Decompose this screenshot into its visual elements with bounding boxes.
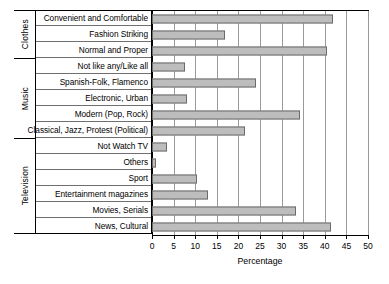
category-label-column: Convenient and ComfortableFashion Striki… — [36, 10, 152, 234]
bar-row — [152, 219, 368, 235]
bar — [152, 127, 245, 136]
bar — [152, 191, 208, 200]
group-label-television: Television — [14, 138, 36, 234]
bar-row — [152, 59, 368, 75]
bar — [152, 175, 197, 184]
x-tick-5 — [174, 235, 175, 239]
bar-chart: ClothesMusicTelevision Convenient and Co… — [0, 0, 389, 284]
bar-row — [152, 187, 368, 203]
x-tick-10 — [195, 235, 196, 239]
group-axis-column: ClothesMusicTelevision — [14, 10, 36, 234]
category-label: Fashion Striking — [36, 26, 151, 42]
bar — [152, 95, 187, 104]
category-label: Modern (Pop, Rock) — [36, 106, 151, 122]
category-label: Not like any/Like all — [36, 58, 151, 74]
group-label-text: Clothes — [20, 19, 30, 49]
x-tick-0 — [152, 235, 153, 239]
x-tick-45 — [346, 235, 347, 239]
category-label: Entertainment magazines — [36, 186, 151, 202]
bar — [152, 111, 300, 120]
group-label-text: Music — [20, 87, 30, 110]
category-label: Others — [36, 154, 151, 170]
bar-row — [152, 27, 368, 43]
x-tick-label: 45 — [342, 241, 351, 251]
category-label: Electronic, Urban — [36, 90, 151, 106]
bar-row — [152, 91, 368, 107]
bar-row — [152, 171, 368, 187]
x-tick-25 — [260, 235, 261, 239]
bar-row — [152, 11, 368, 27]
x-tick-label: 35 — [298, 241, 307, 251]
x-tick-50 — [368, 235, 369, 239]
x-tick-label: 0 — [150, 241, 155, 251]
bar — [152, 223, 331, 232]
group-label-clothes: Clothes — [14, 10, 36, 58]
x-tick-label: 15 — [212, 241, 221, 251]
x-tick-15 — [217, 235, 218, 239]
category-label: Convenient and Comfortable — [36, 10, 151, 26]
bar — [152, 31, 225, 40]
plot-area — [152, 10, 369, 236]
bar-row — [152, 139, 368, 155]
bar-row — [152, 123, 368, 139]
x-tick-30 — [282, 235, 283, 239]
bar-row — [152, 43, 368, 59]
x-tick-label: 25 — [255, 241, 264, 251]
category-label: News, Cultural — [36, 218, 151, 234]
category-label: Normal and Proper — [36, 42, 151, 58]
x-axis-title: Percentage — [152, 256, 368, 266]
bar-row — [152, 203, 368, 219]
x-tick-40 — [325, 235, 326, 239]
x-tick-label: 40 — [320, 241, 329, 251]
category-label: Movies, Serials — [36, 202, 151, 218]
group-label-text: Television — [20, 166, 30, 205]
x-tick-label: 10 — [190, 241, 199, 251]
category-label: Classical, Jazz, Protest (Political) — [36, 122, 151, 138]
bar — [152, 79, 256, 88]
bar — [152, 15, 333, 24]
category-label: Not Watch TV — [36, 138, 151, 154]
x-tick-35 — [303, 235, 304, 239]
bar — [152, 159, 156, 168]
bar — [152, 207, 296, 216]
x-tick-label: 50 — [363, 241, 372, 251]
bar — [152, 143, 167, 152]
bar — [152, 47, 327, 56]
bar-row — [152, 155, 368, 171]
gridline-50 — [368, 11, 369, 235]
bar — [152, 63, 185, 72]
category-label: Spanish-Folk, Flamenco — [36, 74, 151, 90]
bar-row — [152, 75, 368, 91]
category-label: Sport — [36, 170, 151, 186]
bar-row — [152, 107, 368, 123]
x-tick-label: 20 — [234, 241, 243, 251]
x-tick-label: 5 — [171, 241, 176, 251]
x-tick-label: 30 — [277, 241, 286, 251]
x-tick-20 — [238, 235, 239, 239]
